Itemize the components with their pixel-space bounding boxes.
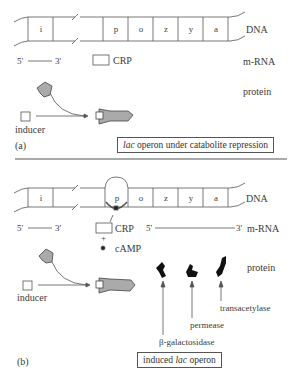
crp-box-b: [96, 223, 112, 233]
repressor-large-a: [99, 109, 133, 124]
gene-y-b: y: [179, 193, 203, 203]
gene-y-a: y: [179, 24, 203, 34]
gene-a-a: a: [204, 24, 228, 34]
repressor-large-b: [99, 278, 135, 293]
mrna-5-left-b: 5': [17, 223, 23, 234]
enzyme-transacetylase: transacetylase: [220, 303, 270, 314]
mrna-5-a: 5': [17, 56, 23, 67]
repressor-small-b: [39, 249, 53, 263]
gene-i-b: i: [29, 193, 53, 203]
repressor-small-a: [37, 82, 52, 97]
gene-i-a: i: [29, 24, 53, 34]
enzyme-beta-galactosidase: β-galactosidase: [159, 337, 215, 348]
inducer-label-b: inducer: [17, 292, 47, 303]
gene-z-b: z: [154, 193, 178, 203]
crp-label-a: CRP: [113, 55, 132, 66]
label-protein-a: protein: [243, 86, 271, 97]
mrna-3-left-b: 3': [55, 223, 61, 234]
label-dna-b: DNA: [246, 193, 268, 204]
panel-label-a: (a): [15, 140, 26, 151]
plus-sign: +: [101, 233, 106, 244]
mrna-3-a: 3': [55, 56, 61, 67]
enzyme-permease: permease: [190, 320, 224, 331]
label-dna-a: DNA: [246, 24, 268, 35]
mrna-3-right-b: 3': [236, 223, 242, 234]
caption-a: lac operon under catabolite repression: [117, 137, 274, 153]
caption-b: induced lac operon: [137, 352, 222, 368]
panel-label-b: (b): [17, 356, 29, 367]
mrna-5-right-b: 5': [146, 223, 152, 234]
label-protein-b: protein: [247, 262, 275, 273]
gene-a-b: a: [204, 193, 228, 203]
gene-o-a: o: [129, 24, 153, 34]
inducer-label-a: inducer: [15, 124, 45, 135]
camp-label: cAMP: [115, 243, 141, 254]
label-mrna-a: m-RNA: [243, 56, 275, 67]
gene-p-b: p: [105, 193, 129, 203]
gene-z-a: z: [154, 24, 178, 34]
crp-box-a: [93, 55, 109, 65]
crp-label-b: CRP: [115, 223, 134, 234]
gene-o-b: o: [129, 193, 153, 203]
label-mrna-b: m-RNA: [247, 223, 279, 234]
gene-p-a: p: [104, 24, 128, 34]
enzyme-shapes: [156, 256, 226, 278]
